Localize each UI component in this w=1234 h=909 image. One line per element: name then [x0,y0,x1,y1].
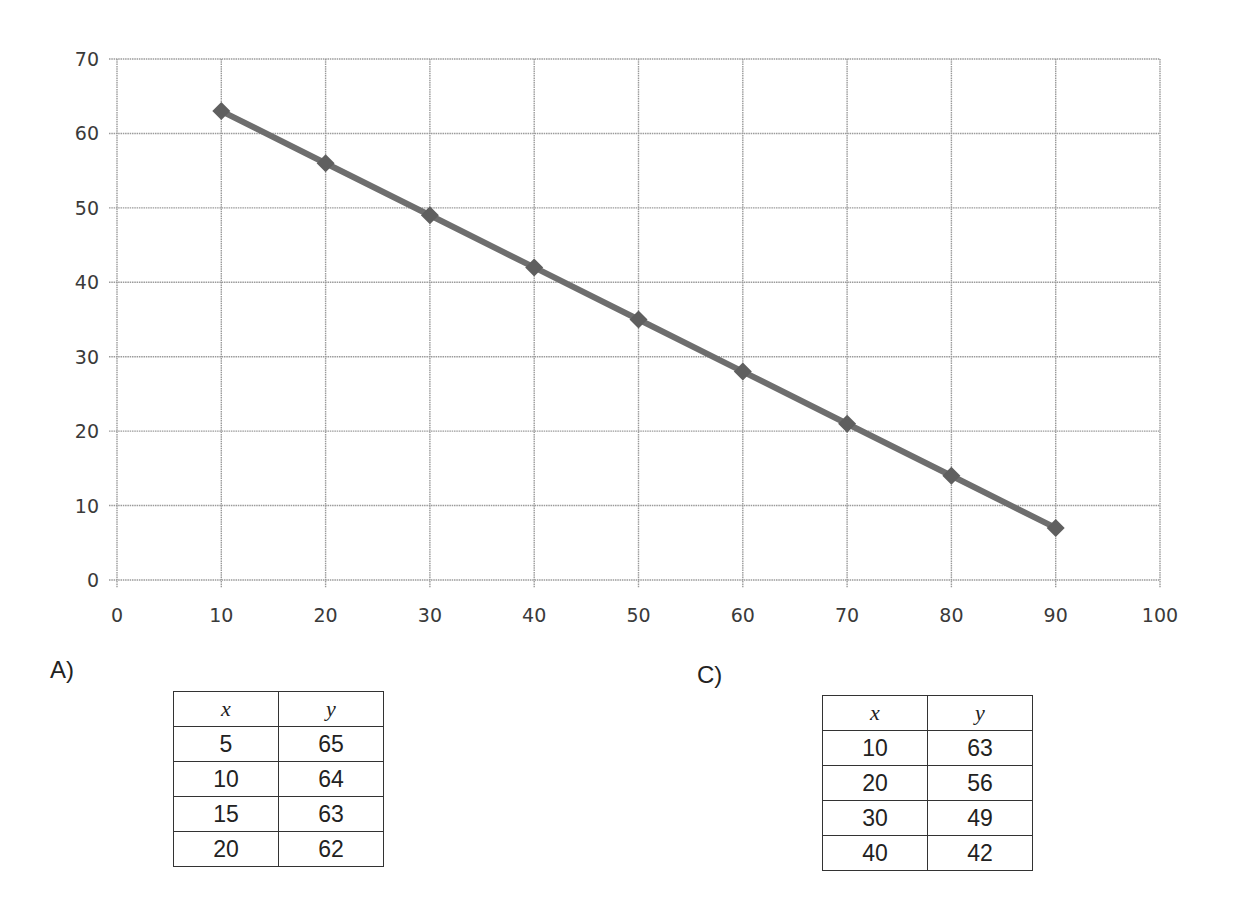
y-tick-label: 50 [39,197,99,219]
cell-y: 64 [279,762,384,797]
x-tick-label: 100 [1130,604,1190,626]
x-tick-label: 40 [504,604,564,626]
line-chart [0,0,1234,640]
x-tick-label: 30 [400,604,460,626]
table-row: 565 [174,727,384,762]
cell-y: 65 [279,727,384,762]
table-row: 3049 [823,801,1033,836]
column-header-y: y [279,692,384,727]
x-tick-label: 10 [191,604,251,626]
y-tick-label: 20 [39,420,99,442]
cell-x: 10 [823,731,928,766]
cell-y: 42 [928,836,1033,871]
table-row: 2056 [823,766,1033,801]
y-tick-label: 30 [39,346,99,368]
cell-y: 63 [279,797,384,832]
option-c-table: x y 1063 2056 3049 4042 [822,695,1033,871]
x-tick-label: 20 [296,604,356,626]
x-tick-label: 60 [713,604,773,626]
cell-y: 63 [928,731,1033,766]
table-header-row: x y [823,696,1033,731]
cell-y: 62 [279,832,384,867]
cell-x: 10 [174,762,279,797]
table-row: 1063 [823,731,1033,766]
y-tick-label: 10 [39,495,99,517]
cell-x: 40 [823,836,928,871]
table-row: 1064 [174,762,384,797]
x-tick-label: 0 [87,604,147,626]
option-a-label: A) [50,656,74,684]
cell-x: 20 [174,832,279,867]
x-tick-label: 90 [1026,604,1086,626]
cell-x: 20 [823,766,928,801]
y-tick-label: 70 [39,48,99,70]
table-row: 2062 [174,832,384,867]
column-header-x: x [174,692,279,727]
column-header-y: y [928,696,1033,731]
cell-x: 5 [174,727,279,762]
y-tick-label: 60 [39,122,99,144]
cell-y: 49 [928,801,1033,836]
cell-x: 15 [174,797,279,832]
cell-y: 56 [928,766,1033,801]
table-row: 4042 [823,836,1033,871]
column-header-x: x [823,696,928,731]
y-tick-label: 40 [39,271,99,293]
table-header-row: x y [174,692,384,727]
y-tick-label: 0 [39,569,99,591]
cell-x: 30 [823,801,928,836]
x-tick-label: 80 [921,604,981,626]
x-tick-label: 70 [817,604,877,626]
table-row: 1563 [174,797,384,832]
option-c-label: C) [697,661,722,689]
x-tick-label: 50 [609,604,669,626]
option-a-table: x y 565 1064 1563 2062 [173,691,384,867]
